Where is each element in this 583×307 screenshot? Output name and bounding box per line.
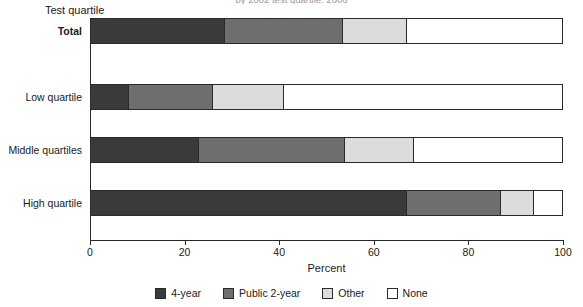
category-label: Low quartile	[25, 91, 82, 103]
legend-item[interactable]: Other	[322, 287, 364, 299]
x-tick-label: 100	[543, 246, 583, 258]
legend-swatch-icon	[322, 288, 333, 299]
bar-segment-none[interactable]	[284, 85, 562, 109]
x-tick-label: 40	[259, 246, 299, 258]
bar-segment-other[interactable]	[343, 19, 407, 43]
bar-row: Low quartile	[90, 84, 563, 110]
stacked-bar-chart: by 2002 test quartile: 2006 Test quartil…	[0, 0, 583, 307]
legend-item[interactable]: None	[387, 287, 428, 299]
x-tick	[90, 240, 91, 245]
x-tick-label: 0	[70, 246, 110, 258]
legend-label: Public 2-year	[239, 287, 300, 299]
stacked-bar[interactable]	[90, 190, 563, 216]
bar-segment-public-2-year[interactable]	[225, 19, 343, 43]
legend-label: None	[403, 287, 428, 299]
category-label: Total	[58, 25, 82, 37]
bar-segment-none[interactable]	[534, 191, 562, 215]
stacked-bar[interactable]	[90, 18, 563, 44]
bar-row: High quartile	[90, 190, 563, 216]
bar-segment-none[interactable]	[414, 138, 562, 162]
x-tick-label: 60	[354, 246, 394, 258]
legend-label: Other	[338, 287, 364, 299]
plot-area: TotalLow quartileMiddle quartilesHigh qu…	[90, 18, 563, 240]
x-tick	[468, 240, 469, 245]
x-tick	[185, 240, 186, 245]
x-tick-label: 20	[165, 246, 205, 258]
stacked-bar[interactable]	[90, 84, 563, 110]
bar-segment-4-year[interactable]	[91, 19, 225, 43]
x-axis-title: Percent	[90, 262, 563, 274]
x-tick	[563, 240, 564, 245]
bar-row: Total	[90, 18, 563, 44]
bar-segment-public-2-year[interactable]	[407, 191, 501, 215]
legend-label: 4-year	[171, 287, 201, 299]
x-axis-line	[90, 240, 564, 241]
legend-swatch-icon	[223, 288, 234, 299]
category-label: High quartile	[23, 197, 82, 209]
legend-swatch-icon	[387, 288, 398, 299]
bar-row: Middle quartiles	[90, 137, 563, 163]
chart-legend: 4-yearPublic 2-yearOtherNone	[0, 284, 583, 302]
bar-segment-none[interactable]	[407, 19, 562, 43]
bar-segment-4-year[interactable]	[91, 85, 129, 109]
bar-segment-4-year[interactable]	[91, 138, 199, 162]
bar-segment-other[interactable]	[345, 138, 413, 162]
bar-segment-other[interactable]	[213, 85, 284, 109]
stacked-bar[interactable]	[90, 137, 563, 163]
category-label: Middle quartiles	[8, 144, 82, 156]
x-tick	[374, 240, 375, 245]
legend-swatch-icon	[155, 288, 166, 299]
bar-segment-other[interactable]	[501, 191, 534, 215]
bar-segment-4-year[interactable]	[91, 191, 407, 215]
legend-item[interactable]: Public 2-year	[223, 287, 300, 299]
y-axis-title: Test quartile	[45, 4, 104, 16]
bar-segment-public-2-year[interactable]	[199, 138, 345, 162]
bar-segment-public-2-year[interactable]	[129, 85, 214, 109]
x-tick-label: 80	[448, 246, 488, 258]
x-tick	[279, 240, 280, 245]
legend-item[interactable]: 4-year	[155, 287, 201, 299]
